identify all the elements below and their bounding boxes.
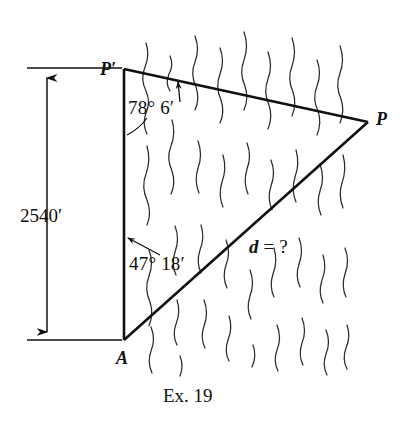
- angle-label-at-a: 47° 18′: [129, 254, 185, 273]
- figure-container: P′ P A 78° 6′ 47° 18′ 2540′ d=? Ex. 19: [0, 0, 408, 429]
- unknown-value: ?: [279, 236, 287, 257]
- vertex-label-p: P: [376, 110, 387, 128]
- vertex-label-a: A: [116, 349, 128, 367]
- angle-leader-top: [178, 82, 180, 102]
- unknown-equals: =: [264, 236, 275, 257]
- dimension-line: [27, 68, 122, 340]
- angle-label-at-p-prime: 78° 6′: [128, 98, 174, 117]
- segment-hypotenuse-a-p: [124, 122, 368, 340]
- dimension-label-baseline: 2540′: [20, 206, 62, 225]
- unknown-distance-label: d=?: [249, 237, 288, 256]
- unknown-symbol: d: [249, 236, 259, 257]
- water-texture: [143, 32, 349, 376]
- vertex-label-p-prime: P′: [100, 60, 116, 78]
- figure-caption: Ex. 19: [163, 386, 213, 405]
